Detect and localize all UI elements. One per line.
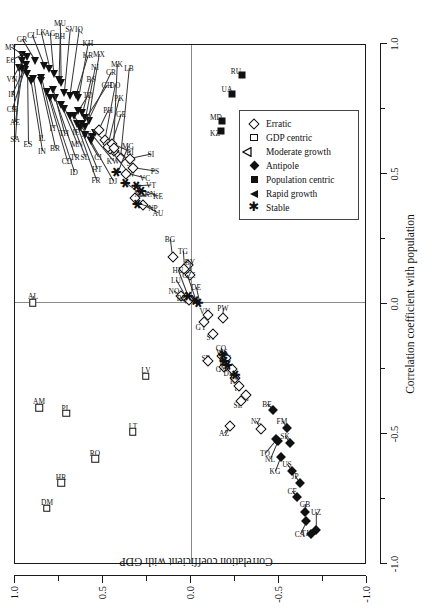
point-label: IR bbox=[9, 89, 17, 98]
point-label: IN bbox=[38, 147, 46, 156]
y-tick bbox=[278, 576, 279, 583]
marker-filled-diamond bbox=[268, 405, 278, 415]
legend-marker-filled-diamond bbox=[248, 162, 260, 169]
legend-marker-filled-square bbox=[248, 176, 260, 183]
x-tick-minor bbox=[380, 498, 385, 499]
point-label: PW bbox=[217, 304, 228, 313]
data-point bbox=[209, 330, 217, 338]
x-tick-label: 1.0 bbox=[389, 37, 400, 50]
legend-marker-asterisk: ✱ bbox=[248, 202, 260, 213]
x-tick bbox=[380, 433, 387, 434]
legend-label: Population centric bbox=[266, 175, 334, 185]
marker-filled-triangle-left bbox=[250, 190, 258, 198]
marker-open-square bbox=[43, 505, 51, 513]
y-tick-minor bbox=[234, 576, 235, 581]
data-point bbox=[218, 118, 225, 125]
marker-asterisk: ✱ bbox=[230, 369, 241, 380]
y-axis-title: Correlation coefficient with GDP bbox=[20, 556, 372, 568]
point-label: LU bbox=[170, 276, 180, 285]
point-label: ID bbox=[70, 167, 78, 176]
marker-filled-square bbox=[218, 118, 225, 125]
data-point bbox=[204, 311, 212, 319]
marker-asterisk: ✱ bbox=[112, 166, 123, 177]
legend-label: Antipole bbox=[266, 161, 299, 171]
marker-filled-diamond bbox=[285, 438, 295, 448]
point-label: ES bbox=[24, 139, 33, 148]
legend-item-erratic[interactable]: Erratic bbox=[248, 117, 350, 130]
point-label: TR bbox=[70, 153, 80, 162]
x-tick bbox=[380, 303, 387, 304]
data-point bbox=[60, 105, 68, 113]
point-label: UZ bbox=[311, 508, 321, 517]
legend-label: GDP centric bbox=[266, 133, 312, 143]
marker-filled-triangle-left bbox=[57, 79, 65, 87]
marker-filled-diamond bbox=[311, 525, 321, 535]
marker-filled-triangle-left bbox=[37, 74, 45, 82]
marker-open-triangle-left bbox=[250, 148, 258, 156]
point-label: BG bbox=[165, 235, 175, 244]
marker-open-square bbox=[91, 455, 99, 463]
x-axis-title: Correlation coefficient with population bbox=[404, 44, 416, 564]
marker-filled-square bbox=[229, 90, 236, 97]
marker-filled-triangle-left bbox=[70, 112, 78, 120]
y-tick-label: -1.0 bbox=[361, 586, 372, 616]
marker-filled-triangle-left bbox=[49, 86, 57, 94]
data-point bbox=[237, 397, 245, 405]
marker-filled-triangle-left bbox=[60, 105, 68, 113]
data-point bbox=[229, 90, 236, 97]
legend-marker-filled-triangle-left bbox=[248, 190, 260, 198]
data-point bbox=[57, 79, 65, 87]
data-point bbox=[23, 53, 31, 61]
x-tick-minor bbox=[380, 368, 385, 369]
data-point bbox=[74, 94, 82, 102]
marker-asterisk: ✱ bbox=[248, 202, 259, 213]
y-tick bbox=[366, 576, 367, 583]
data-point bbox=[129, 164, 137, 172]
data-point bbox=[238, 72, 245, 79]
data-point: ✱ bbox=[112, 166, 123, 177]
data-point: ✱ bbox=[133, 198, 144, 209]
legend-item-rapid-growth[interactable]: Rapid growth bbox=[248, 187, 350, 200]
point-label: TG bbox=[178, 247, 188, 256]
x-tick bbox=[380, 563, 387, 564]
point-label: IQ bbox=[75, 24, 83, 33]
legend-label: Moderate growth bbox=[266, 147, 331, 157]
data-point bbox=[270, 407, 277, 414]
point-label: CZ bbox=[182, 270, 192, 279]
legend-label: Erratic bbox=[266, 119, 292, 129]
legend-item-gdp-centric[interactable]: GDP centric bbox=[248, 131, 350, 144]
marker-filled-square bbox=[217, 127, 224, 134]
point-label: KH bbox=[83, 39, 94, 48]
plot-area: SAAECHIRVNEGMYGRESINILBRITCLLKAGBHMUSVIQ… bbox=[14, 44, 366, 564]
marker-open-square bbox=[129, 428, 137, 436]
data-point bbox=[235, 382, 243, 390]
marker-open-square bbox=[29, 299, 37, 307]
legend-item-moderate-growth[interactable]: Moderate growth bbox=[248, 145, 350, 158]
rotated-figure-container: SAAECHIRVNEGMYGRESINILBRITCLLKAGBHMUSVIQ… bbox=[0, 0, 447, 616]
legend-label: Rapid growth bbox=[266, 189, 317, 199]
point-label: TH bbox=[59, 128, 69, 137]
legend-item-population-centric[interactable]: Population centric bbox=[248, 173, 350, 186]
marker-open-diamond bbox=[248, 118, 259, 129]
legend-item-stable[interactable]: ✱Stable bbox=[248, 201, 350, 214]
point-label: KG bbox=[270, 467, 281, 476]
point-label: SI bbox=[147, 150, 154, 159]
marker-open-diamond bbox=[202, 356, 213, 367]
data-point bbox=[91, 455, 99, 463]
marker-filled-square bbox=[238, 72, 245, 79]
point-label: PS bbox=[151, 166, 159, 175]
point-label: SV bbox=[65, 24, 75, 33]
point-label: SA bbox=[10, 135, 20, 144]
marker-open-diamond bbox=[93, 124, 104, 135]
point-label: MG bbox=[122, 141, 134, 150]
point-label: CH bbox=[7, 105, 17, 114]
legend: ErraticGDP centricModerate growthAntipol… bbox=[239, 110, 359, 220]
data-point bbox=[286, 440, 293, 447]
data-point bbox=[110, 144, 118, 152]
data-point bbox=[257, 425, 265, 433]
point-label: DE bbox=[191, 282, 201, 291]
legend-items: ErraticGDP centricModerate growthAntipol… bbox=[248, 117, 350, 214]
legend-item-antipole[interactable]: Antipole bbox=[248, 159, 350, 172]
scatter-figure: SAAECHIRVNEGMYGRESINILBRITCLLKAGBHMUSVIQ… bbox=[0, 0, 447, 616]
data-point bbox=[36, 404, 44, 412]
